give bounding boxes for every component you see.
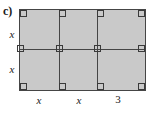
right-angle-icon: [59, 10, 66, 17]
right-angle-icon: [138, 10, 145, 17]
right-angle-icon: [56, 45, 63, 52]
right-angle-icon: [138, 45, 145, 52]
right-angle-icon: [17, 45, 24, 52]
dimension-label-left-top: x: [6, 29, 18, 40]
part-label: c): [3, 5, 12, 17]
dimension-label-bottom-2: x: [72, 95, 86, 106]
right-angle-icon: [20, 10, 27, 17]
geometry-figure: c) x x x x 3: [0, 0, 151, 116]
right-angle-icon: [94, 45, 101, 52]
right-angle-icon: [97, 10, 104, 17]
right-angle-icon: [97, 83, 104, 90]
right-angle-icon: [138, 83, 145, 90]
rectangle-grid: [19, 9, 146, 91]
dimension-label-bottom-1: x: [32, 95, 46, 106]
right-angle-icon: [20, 83, 27, 90]
dimension-label-bottom-3: 3: [111, 94, 125, 105]
right-angle-icon: [59, 83, 66, 90]
dimension-label-left-bottom: x: [6, 64, 18, 75]
